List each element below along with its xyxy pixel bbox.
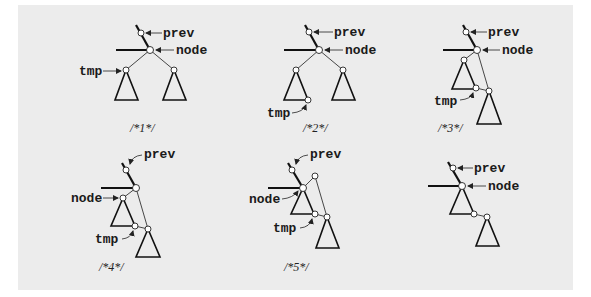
figure-6: prev node (428, 161, 519, 246)
prev-label: prev (310, 147, 341, 162)
node-node (459, 183, 466, 190)
node-node (316, 47, 323, 54)
node-node (120, 195, 126, 201)
right-subtree-icon (476, 217, 499, 246)
tmp-node (312, 211, 318, 217)
prev-label: prev (334, 25, 365, 40)
figure-5: prev node tmp /*5*/ (249, 147, 341, 274)
left-child-node (293, 67, 299, 73)
figure-caption: /*5*/ (283, 260, 310, 274)
tmp-label: tmp (267, 106, 291, 121)
right-subtree-icon (477, 91, 501, 124)
node-node (474, 47, 481, 54)
tmp-node (123, 67, 129, 73)
tree-diagram: prev node tmp /*1*/ prev node tmp /*2*/ (0, 0, 591, 297)
figure-2: prev node tmp /*2*/ (267, 25, 376, 135)
figure-caption: /*2*/ (302, 121, 329, 135)
tmp-node (305, 97, 311, 103)
right-child-node (486, 88, 492, 94)
node-label: node (488, 179, 519, 194)
tmp-node (473, 85, 479, 91)
right-subtree-icon (332, 70, 355, 100)
left-subtree-icon (450, 186, 474, 214)
prev-node (123, 167, 129, 173)
node-label: node (176, 43, 207, 58)
prev-node (463, 29, 469, 35)
parent-link (136, 25, 150, 50)
figure-caption: /*3*/ (437, 121, 464, 135)
prev-node (306, 29, 312, 35)
node-label: node (249, 192, 280, 207)
right-child-node (145, 226, 151, 232)
figure-caption: /*4*/ (98, 260, 125, 274)
left-subtree-icon (284, 70, 308, 100)
figure-1: prev node tmp /*1*/ (79, 25, 207, 135)
node-label: node (502, 43, 533, 58)
right-child-node (484, 214, 490, 220)
node-label: node (71, 191, 102, 206)
prev-node (450, 165, 456, 171)
left-subtree-icon (452, 60, 476, 89)
figure-4: prev node tmp /*4*/ (71, 147, 175, 274)
tmp-label: tmp (79, 64, 103, 79)
right-subtree-icon (316, 217, 339, 248)
right-child-node (340, 67, 346, 73)
tmp-label: tmp (434, 94, 458, 109)
root-node (133, 185, 140, 192)
prev-node (289, 167, 295, 173)
left-subtree-icon (115, 70, 138, 100)
node-label: node (345, 43, 376, 58)
right-child-node (171, 67, 177, 73)
prev-node (138, 30, 144, 36)
figure-caption: /*1*/ (129, 121, 156, 135)
right-child-node (324, 214, 330, 220)
node-node (300, 185, 307, 192)
tmp-label: tmp (95, 232, 119, 247)
right-subtree-icon (163, 70, 186, 100)
tmp-node (132, 223, 138, 229)
prev-label: prev (474, 161, 505, 176)
tmp-label: tmp (273, 221, 297, 236)
prev-label: prev (144, 147, 175, 162)
node-node (147, 47, 154, 54)
prev-label: prev (163, 26, 194, 41)
tmp-node (471, 211, 477, 217)
left-subtree-icon (111, 198, 135, 226)
right-subtree-icon (136, 229, 160, 257)
figure-3: prev node tmp /*3*/ (434, 25, 533, 135)
detached-node (312, 173, 318, 179)
left-child-node (461, 57, 467, 63)
prev-label: prev (488, 25, 519, 40)
